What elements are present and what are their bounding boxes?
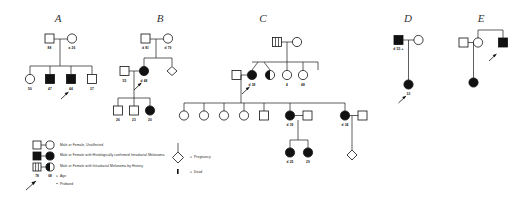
pedigree-c: d 38 4 48 d 39 d 34: [179, 37, 367, 164]
person-age-label: d 48: [140, 79, 147, 83]
person-age-label: d 39: [286, 123, 293, 127]
proband-arrow: [134, 83, 142, 90]
person-symbol-female-affected: [340, 111, 349, 120]
person-age-label: 88: [48, 46, 52, 50]
person-age-label: d 25: [286, 160, 293, 164]
person-symbol-female-by-history: [265, 70, 274, 79]
legend-icon-filled-circle: [46, 152, 54, 160]
person-age-label: 26: [116, 118, 120, 122]
legend-label: Male or Female with Intraductal Melanoma…: [60, 164, 143, 168]
person-symbol-female-affected-proband: [404, 80, 413, 89]
person-age-label: 48: [301, 83, 305, 87]
person-symbol-male-affected-proband: [499, 38, 508, 47]
person-symbol-male-unaffected: [45, 34, 54, 43]
person-symbol-female-unaffected: [282, 70, 291, 79]
person-symbol-female-unaffected: [25, 74, 34, 83]
pedigree-b: d 81 d 79 55 d 48 26 23 20: [114, 34, 178, 122]
person-symbol-female-affected: [285, 148, 294, 157]
person-symbol-female-affected: [303, 148, 312, 157]
person-symbol-male-unaffected: [114, 106, 123, 115]
proband-arrow: [242, 87, 250, 94]
legend-bullet-icon: [56, 175, 57, 176]
person-symbol-male-unaffected: [130, 106, 139, 115]
legend-bullet-icon: [190, 156, 191, 157]
pedigree-title-e: E: [477, 12, 485, 24]
pedigree-title-d: D: [403, 12, 412, 24]
legend-label: Male or Female, Unaffected: [60, 143, 103, 147]
person-age-label: d 81: [142, 46, 149, 50]
legend-icon-half-filled-circle: [46, 163, 54, 171]
person-symbol-male-by-history: [273, 38, 282, 47]
legend-age-example-right: 68: [48, 174, 52, 178]
person-symbol-male-unaffected: [232, 71, 241, 80]
legend-icon-diamond: [173, 152, 184, 163]
legend-icon-open-square: [33, 141, 41, 149]
person-symbol-female-unaffected: [219, 111, 228, 120]
pedigree-a: 88 a 26 50 47 44 37: [25, 34, 96, 99]
person-age-label: 29: [306, 160, 310, 164]
pedigree-title-a: A: [54, 12, 62, 24]
person-symbol-female-unaffected: [67, 34, 76, 43]
legend-icon-arrow: [26, 181, 36, 190]
pedigree-figure: A B C D E 88 a 26 50 47 44 37: [0, 0, 528, 197]
legend-icon-filled-square: [33, 152, 41, 160]
legend: Male or Female, Unaffected Male or Femal…: [26, 141, 211, 190]
person-symbol-female-unaffected: [298, 70, 307, 79]
legend-bullet-icon: [190, 171, 191, 172]
pedigree-title-c: C: [259, 12, 267, 24]
person-symbol-male-unaffected: [88, 75, 97, 84]
person-symbol-male-unaffected: [120, 67, 129, 76]
person-age-label: a 26: [68, 46, 75, 50]
person-age-label: 44: [69, 87, 73, 91]
person-age-label: 37: [90, 87, 94, 91]
legend-label: Proband: [60, 182, 73, 186]
person-age-label: 50: [28, 87, 32, 91]
person-symbol-female-unaffected: [163, 34, 172, 43]
person-symbol-female-affected: [145, 106, 154, 115]
person-age-label: 47: [48, 87, 52, 91]
person-symbol-female-unaffected: [239, 111, 248, 120]
proband-arrow: [489, 54, 497, 61]
legend-icon-dead-mark: [177, 169, 179, 174]
person-symbol-female-affected: [285, 111, 294, 120]
proband-arrow: [61, 92, 69, 99]
legend-icon-striped-square: [33, 163, 41, 171]
legend-label: Dead: [194, 170, 202, 174]
person-age-label: d 79: [164, 46, 171, 50]
person-symbol-female-unaffected: [414, 35, 423, 44]
legend-label: Male or Female with Histologically confi…: [60, 153, 164, 157]
person-age-label: 20: [148, 118, 152, 122]
person-age-label: 23: [132, 118, 136, 122]
pedigree-e: [459, 30, 508, 87]
person-age-label: d 55 +: [393, 47, 403, 51]
person-symbol-male-unaffected: [141, 34, 150, 43]
person-symbol-female-unaffected: [473, 38, 482, 47]
person-symbol-female-affected-proband: [247, 70, 256, 79]
pedigree-title-b: B: [157, 12, 164, 24]
person-age-label: d 34: [341, 123, 348, 127]
person-symbol-female-unaffected: [179, 111, 188, 120]
legend-label: Age: [60, 174, 66, 178]
legend-age-example-left: 78: [35, 174, 39, 178]
proband-arrow: [399, 96, 407, 103]
pedigree-d: d 55 + 32: [393, 35, 423, 103]
person-symbol-male-unaffected: [459, 38, 468, 47]
person-symbol-pregnancy: [347, 150, 357, 160]
person-symbol-female-unaffected: [199, 111, 208, 120]
person-symbol-male-affected-proband: [67, 75, 76, 84]
person-age-label: 32: [407, 92, 411, 96]
person-symbol-female-affected: [469, 78, 478, 87]
person-symbol-male-unaffected: [358, 111, 367, 120]
person-age-label: 4: [286, 83, 288, 87]
person-age-label: 55: [123, 79, 127, 83]
person-symbol-female-unaffected: [292, 37, 301, 46]
person-symbol-male-affected: [46, 75, 55, 84]
person-symbol-pregnancy: [167, 67, 177, 76]
person-symbol-male-unaffected: [303, 111, 312, 120]
legend-icon-open-circle: [46, 141, 54, 149]
person-symbol-male-affected: [394, 36, 403, 45]
legend-label: Pregnancy: [194, 155, 211, 159]
legend-bullet-icon: [56, 183, 57, 184]
person-symbol-male-unaffected: [260, 111, 269, 120]
person-age-label: d 38: [248, 83, 255, 87]
